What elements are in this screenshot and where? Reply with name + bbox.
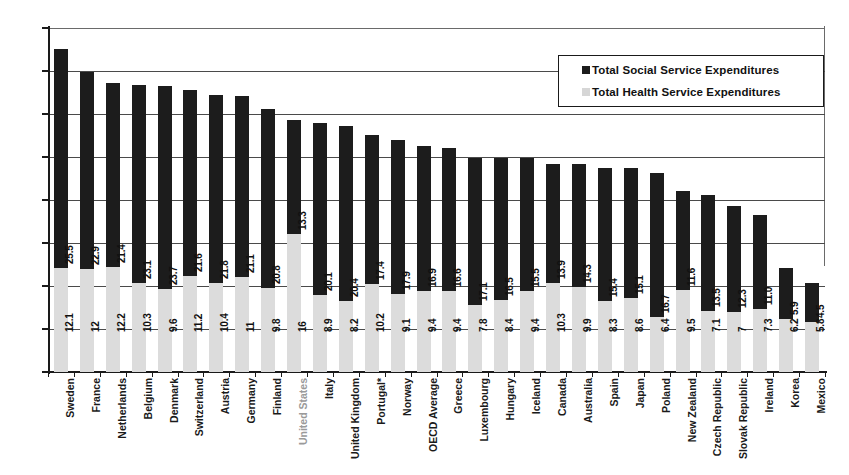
legend-item-social: Total Social Service Expenditures (582, 64, 779, 76)
bar-value-label-social: 21.4 (117, 244, 127, 263)
bar-value-label-social: 16.5 (505, 277, 515, 296)
x-axis-label: Italy (324, 378, 335, 399)
bar-value-label-social: 25.5 (65, 245, 75, 264)
bar-value-label-health: 6.2 (790, 319, 800, 332)
bar-value-label-social: 20.1 (324, 273, 334, 292)
bar-value-label-social: 13.5 (712, 288, 722, 307)
x-tick-mark (126, 372, 127, 377)
x-axis-label: Japan (635, 378, 646, 408)
bar-value-label-health: 8.6 (635, 319, 645, 332)
x-axis-label: United Kingdom (350, 378, 361, 459)
x-tick-mark (281, 372, 282, 377)
x-tick-mark (462, 372, 463, 377)
bar-value-label-social: 21.6 (194, 253, 204, 272)
x-tick-mark (255, 372, 256, 377)
bar-segment-health (727, 312, 741, 372)
bar-value-label-social: 20.4 (350, 279, 360, 298)
x-tick-mark (411, 372, 412, 377)
bar-value-label-health: 9.9 (583, 319, 593, 332)
bar-segment-social (54, 49, 68, 268)
bar-segment-social (235, 96, 249, 277)
x-axis-label: France (91, 378, 102, 412)
x-tick-mark (773, 372, 774, 377)
bar-value-label-social: 17.1 (479, 282, 489, 301)
bar-value-label-social: 13.3 (298, 212, 308, 231)
x-axis-label: Sweden (65, 378, 76, 418)
x-axis-label: Korea (790, 378, 801, 408)
legend-swatch-social-icon (582, 66, 590, 74)
bar-value-label-health: 12.1 (65, 313, 75, 332)
bar-value-label-health: 16 (298, 321, 308, 332)
x-axis-label: Portugal* (376, 378, 387, 425)
bar-value-label-social: 15.5 (531, 268, 541, 287)
x-tick-mark (307, 372, 308, 377)
legend-label-social: Total Social Service Expenditures (592, 64, 779, 76)
x-axis-label: Belgium (143, 378, 154, 419)
bar-value-label-health: 11.2 (194, 314, 204, 332)
x-tick-mark (152, 372, 153, 377)
bar-segment-social (209, 95, 223, 282)
x-axis-label: Australia (583, 378, 594, 423)
x-axis-label: Finland (272, 378, 283, 415)
bar-value-label-health: 7.1 (712, 319, 722, 332)
bar-value-label-social: 23.1 (143, 261, 153, 280)
x-axis-label: Denmark (169, 378, 180, 423)
bar-value-label-health: 8.3 (609, 319, 619, 332)
bar-segment-health (624, 298, 638, 372)
x-axis-label: Slovak Republic (738, 378, 749, 459)
x-axis-label: Netherlands (117, 378, 128, 439)
bar-value-label-health: 9.6 (169, 319, 179, 332)
bar-value-label-social: 11.6 (687, 268, 697, 286)
x-axis-label: Luxembourg (479, 378, 490, 442)
x-axis-label: Austria (220, 378, 231, 414)
bar-value-label-social: 21.1 (246, 255, 256, 274)
x-axis-label: Poland (661, 378, 672, 413)
x-tick-mark (385, 372, 386, 377)
x-tick-mark (178, 372, 179, 377)
bar-value-label-social: 16.9 (428, 268, 438, 287)
x-tick-mark (333, 372, 334, 377)
bar-value-label-health: 8.2 (350, 319, 360, 332)
bar-value-label-health: 7.3 (764, 319, 774, 332)
bar-value-label-health: 9.4 (531, 319, 541, 332)
bar-column (235, 28, 249, 372)
bar-segment-social (106, 83, 120, 267)
bar-value-label-health: 8.4 (505, 319, 515, 332)
bar-value-label-social: 17.4 (376, 262, 386, 281)
x-tick-mark (592, 372, 593, 377)
x-axis-label: Norway (402, 378, 413, 416)
legend-swatch-health-icon (582, 88, 590, 96)
stacked-bar-chart: 0510152025303540 25.512.122.91221.412.22… (0, 0, 849, 475)
bar-value-label-social: 11.0 (764, 287, 774, 305)
bar-value-label-health: 9.4 (428, 319, 438, 332)
x-axis-label: Hungary (505, 378, 516, 421)
x-axis-label: Germany (246, 378, 257, 424)
legend-item-health: Total Health Service Expenditures (582, 86, 780, 98)
bar-segment-social (132, 85, 146, 284)
bar-value-label-social: 22.9 (91, 246, 101, 265)
bar-segment-health (391, 294, 405, 372)
bar-value-label-health: 12 (91, 321, 101, 332)
legend-label-health: Total Health Service Expenditures (592, 86, 780, 98)
bar-value-label-social: 5.9 (790, 301, 800, 314)
x-axis-label: Greece (453, 378, 464, 414)
bar-value-label-social: 16.7 (661, 294, 671, 313)
bar-value-label-health: 6.4 (661, 319, 671, 332)
x-axis-label: Ireland (764, 378, 775, 412)
bar-value-label-health: 11 (246, 322, 256, 332)
x-tick-mark (696, 372, 697, 377)
x-tick-mark (670, 372, 671, 377)
bar-value-label-social: 4.5 (816, 305, 826, 318)
x-tick-mark (799, 372, 800, 377)
x-tick-mark (644, 372, 645, 377)
x-tick-mark (618, 372, 619, 377)
x-tick-mark (514, 372, 515, 377)
bar-segment-health (287, 234, 301, 372)
bar-segment-social (158, 86, 172, 290)
bar-value-label-social: 20.8 (272, 265, 282, 284)
bar-segment-health (494, 300, 508, 372)
bar-value-label-health: 10.2 (376, 313, 386, 332)
x-axis-label: Mexico (816, 378, 827, 414)
bar-value-label-social: 21.8 (220, 260, 230, 279)
x-tick-mark (437, 372, 438, 377)
